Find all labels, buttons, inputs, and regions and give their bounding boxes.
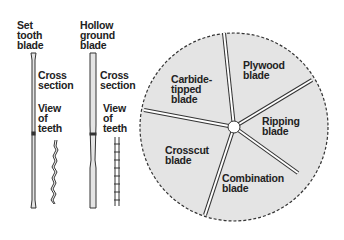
ripping-label: Ripping blade	[262, 116, 300, 136]
hollow-ground-view-label: View of teeth	[103, 103, 127, 133]
hollow-ground-cross-section	[90, 53, 96, 208]
hollow-ground-teeth-view	[114, 137, 120, 206]
crosscut-label: Crosscut blade	[165, 145, 209, 165]
combination-label: Combination blade	[222, 173, 284, 193]
hollow-ground-title: Hollow ground blade	[80, 20, 115, 50]
plywood-label: Plywood blade	[243, 60, 285, 80]
set-tooth-teeth-view	[51, 140, 58, 204]
set-tooth-title: Set tooth blade	[17, 20, 43, 50]
set-tooth-view-label: View of teeth	[38, 103, 62, 133]
hollow-ground-cross-label: Cross section	[100, 70, 135, 90]
set-tooth-cross-section	[31, 53, 36, 208]
carbide-tipped-label: Carbide- tipped blade	[171, 74, 212, 104]
set-tooth-cross-label: Cross section	[38, 70, 73, 90]
